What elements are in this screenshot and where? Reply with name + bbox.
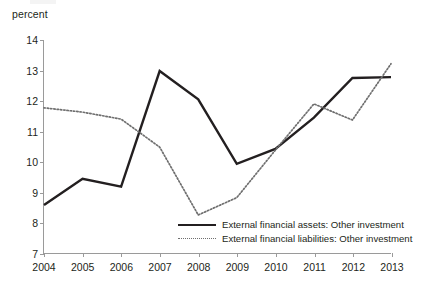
legend-label-assets: External financial assets: Other investm… — [222, 218, 404, 232]
cropped-title-artifact — [30, 0, 56, 4]
x-axis-tick-mark — [121, 253, 122, 257]
series-line-external-financial-liabilities — [44, 64, 391, 215]
legend-swatch-dotted-line-icon — [178, 234, 216, 244]
legend-item-liabilities: External financial liabilities: Other in… — [178, 232, 393, 246]
x-axis-tick-label: 2013 — [380, 261, 403, 273]
x-axis-tick-mark — [160, 253, 161, 257]
y-axis-tick-label: 11 — [27, 126, 38, 138]
y-axis-unit-label: percent — [12, 8, 48, 20]
y-axis-tick-mark — [40, 101, 44, 102]
x-axis-tick-mark — [237, 253, 238, 257]
y-axis-tick-label: 10 — [26, 156, 38, 168]
x-axis-tick-mark — [199, 253, 200, 257]
x-axis-tick-label: 2009 — [226, 261, 249, 273]
y-axis-tick-mark — [40, 132, 44, 133]
x-axis-tick-mark — [44, 253, 45, 257]
x-axis-tick-label: 2004 — [32, 261, 55, 273]
x-axis-tick-mark — [392, 253, 393, 257]
y-axis-tick-mark — [40, 162, 44, 163]
y-axis-tick-label: 13 — [26, 65, 38, 77]
x-axis-tick-label: 2005 — [71, 261, 94, 273]
x-axis-tick-mark — [276, 253, 277, 257]
y-axis-tick-label: 9 — [32, 187, 38, 199]
legend-swatch-solid-line-icon — [178, 220, 216, 230]
x-axis-tick-label: 2007 — [148, 261, 171, 273]
x-axis-tick-mark — [315, 253, 316, 257]
y-axis-tick-mark — [40, 193, 44, 194]
x-axis-tick-label: 2008 — [187, 261, 210, 273]
x-axis-tick-mark — [353, 253, 354, 257]
series-line-external-financial-assets — [44, 71, 391, 205]
y-axis-tick-mark — [40, 71, 44, 72]
x-axis-tick-label: 2011 — [303, 261, 326, 273]
y-axis-tick-label: 8 — [32, 217, 38, 229]
legend-item-assets: External financial assets: Other investm… — [178, 218, 393, 232]
x-axis-tick-mark — [83, 253, 84, 257]
legend-label-liabilities: External financial liabilities: Other in… — [222, 232, 412, 246]
chart-legend: External financial assets: Other investm… — [178, 218, 393, 246]
y-axis-tick-label: 12 — [26, 95, 38, 107]
chart-figure: percent 78910111213142004200520062007200… — [0, 0, 435, 290]
y-axis-tick-mark — [40, 223, 44, 224]
x-axis-tick-label: 2012 — [342, 261, 365, 273]
y-axis-tick-label: 14 — [26, 34, 38, 46]
x-axis-tick-label: 2010 — [264, 261, 287, 273]
y-axis-tick-mark — [40, 40, 44, 41]
x-axis-tick-label: 2006 — [110, 261, 133, 273]
y-axis-tick-label: 7 — [32, 248, 38, 260]
